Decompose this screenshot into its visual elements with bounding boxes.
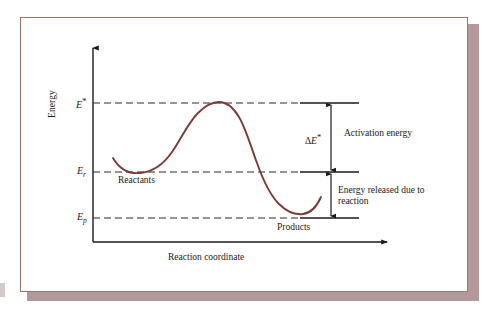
level-label-activated: E* (76, 96, 87, 111)
reactants-label: Reactants (118, 175, 155, 186)
level-label-reactant-subscript: r (83, 170, 86, 179)
activation-energy-label: Activation energy (341, 128, 415, 139)
level-label-reactant: Er (77, 165, 86, 179)
x-axis-label: Reaction coordinate (168, 252, 244, 263)
level-label-product: Ep (77, 211, 87, 225)
delta-e-superscript: * (317, 132, 321, 142)
products-label: Products (277, 222, 310, 233)
level-label-activated-superscript: * (82, 96, 87, 106)
energy-released-label: Energy released due to reaction (338, 185, 430, 206)
delta-e-star-label: ΔE* (305, 133, 321, 147)
figure-page: Energy E* Er Ep Reactants Products ΔE* A… (0, 0, 486, 324)
y-axis-label: Energy (47, 90, 58, 118)
figure-frame (20, 17, 468, 292)
level-label-product-subscript: p (83, 216, 87, 225)
page-edge-artifact (0, 283, 5, 297)
